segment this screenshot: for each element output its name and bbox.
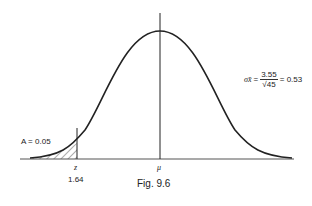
normal-curve — [30, 31, 292, 158]
sigma-symbol: σx̄ — [244, 75, 252, 84]
equals-sign: = — [254, 75, 259, 84]
figure-caption: Fig. 9.6 — [137, 178, 170, 189]
sigma-formula: σx̄ = 3.55 √45 = 0.53 — [244, 70, 302, 89]
z-label: z — [74, 163, 77, 172]
z-value: 1.64 — [68, 175, 84, 184]
denominator: √45 — [262, 80, 275, 89]
area-label: A = 0.05 — [21, 137, 51, 146]
mean-label: μ — [157, 163, 161, 172]
fraction: 3.55 √45 — [260, 70, 278, 89]
sigma-result: = 0.53 — [280, 75, 302, 84]
normal-curve-diagram — [0, 0, 312, 206]
numerator: 3.55 — [260, 70, 278, 80]
